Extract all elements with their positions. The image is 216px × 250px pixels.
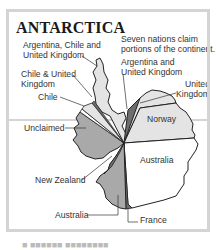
region-australia-east <box>124 138 198 208</box>
label-norway: Norway <box>147 114 176 124</box>
label-australia-east: Australia <box>140 155 173 165</box>
cut-off-caption: ■ ■■■■■■ ■■■■■■■■ <box>22 240 109 250</box>
